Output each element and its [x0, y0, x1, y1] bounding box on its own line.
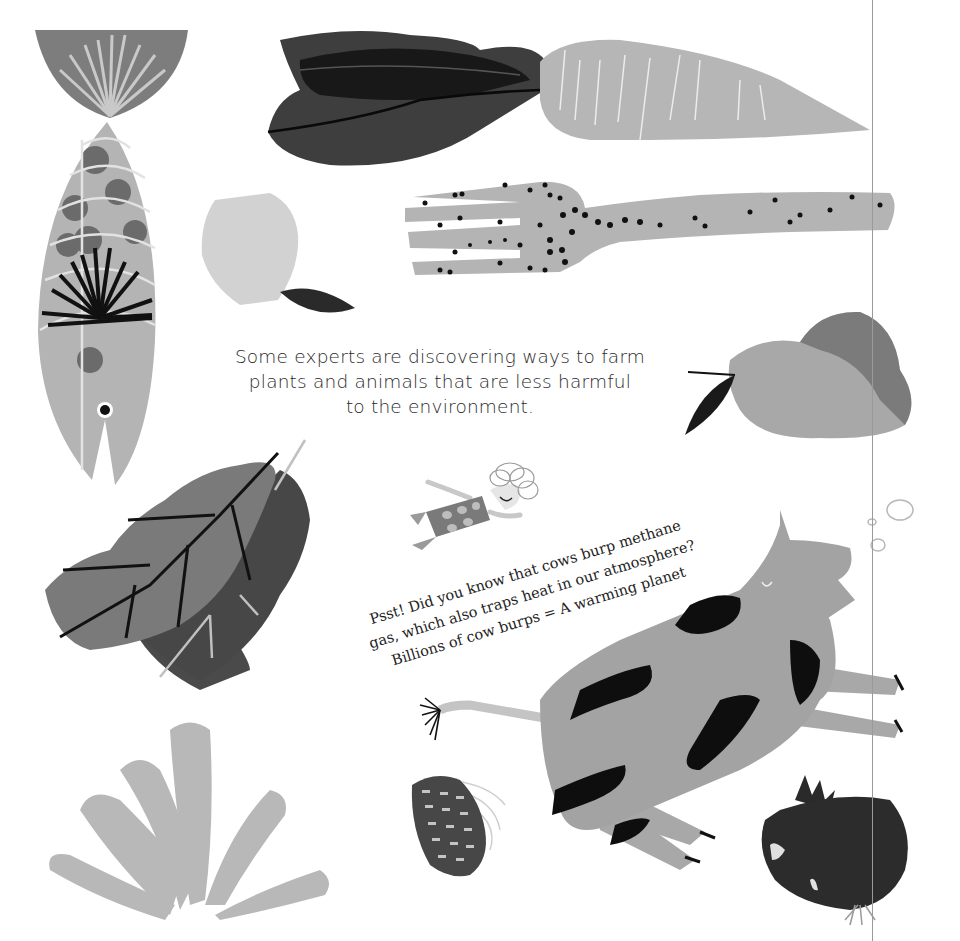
- illustrations: [0, 0, 960, 941]
- main-caption-line: to the environment.: [200, 394, 680, 419]
- fish-icon: [35, 30, 188, 485]
- book-page: Some experts are discovering ways to far…: [0, 0, 960, 941]
- carrot-icon: [268, 31, 870, 166]
- beet-icon: [762, 775, 908, 925]
- main-caption-line: plants and animals that are less harmful: [200, 369, 680, 394]
- apple-icon: [202, 193, 355, 313]
- burp-bubbles-icon: [868, 500, 913, 551]
- main-caption-line: Some experts are discovering ways to far…: [200, 344, 680, 369]
- seaweed-icon: [49, 723, 329, 921]
- main-caption: Some experts are discovering ways to far…: [200, 344, 680, 419]
- pear-icon: [685, 312, 911, 438]
- child-figure-icon: [410, 463, 538, 550]
- blackberry-icon: [412, 776, 505, 876]
- leaf-icon: [45, 440, 310, 690]
- page-gutter-line: [872, 0, 873, 941]
- fork-icon: [405, 182, 895, 275]
